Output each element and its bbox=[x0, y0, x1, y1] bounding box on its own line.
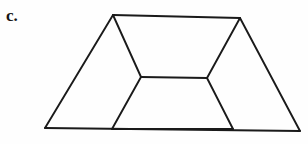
trapezoid-figure-svg bbox=[0, 0, 308, 144]
inner-right-edge bbox=[207, 78, 233, 129]
connector-edge-top-right bbox=[207, 18, 240, 78]
inner-left-edge bbox=[112, 77, 141, 129]
outer-top-edge bbox=[113, 15, 240, 18]
outer-right-edge bbox=[240, 18, 300, 131]
connector-edge-top-left bbox=[113, 15, 141, 77]
outer-left-edge bbox=[45, 15, 113, 128]
inner-quadrilateral-face bbox=[112, 77, 233, 129]
outer-trapezoid-face bbox=[45, 15, 300, 131]
inner-top-edge bbox=[141, 77, 207, 78]
figure-container: c. bbox=[0, 0, 308, 144]
